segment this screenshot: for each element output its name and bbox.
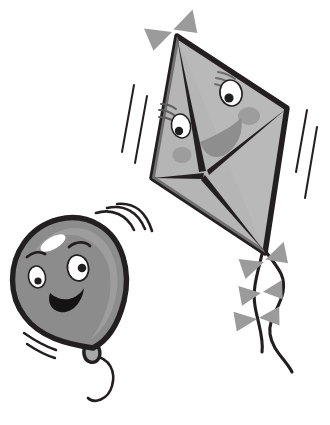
illustration-svg xyxy=(0,0,330,425)
kite-cheek-left xyxy=(173,147,192,163)
background xyxy=(0,0,330,425)
illustration-canvas: Cartoon balloon and kite xyxy=(0,0,330,425)
